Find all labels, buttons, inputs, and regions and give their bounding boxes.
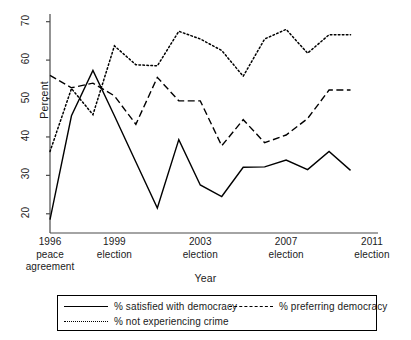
x-tick-year: 2003 — [155, 236, 245, 249]
y-axis-label: Percent — [38, 60, 50, 140]
x-axis-tick-label: 1999election — [69, 236, 159, 261]
x-tick-event: election — [69, 249, 159, 262]
series-line-solid — [50, 70, 351, 219]
legend-label-crime: % not experiencing crime — [114, 316, 229, 327]
legend-label-preferring: % preferring democracy — [279, 301, 387, 312]
x-axis-tick-label: 2003election — [155, 236, 245, 261]
y-axis-tick-label: 30 — [20, 163, 31, 185]
legend-item-crime: % not experiencing crime — [64, 314, 229, 328]
chart-legend: % satisfied with democracy % preferring … — [57, 295, 377, 331]
x-axis-label: Year — [0, 272, 411, 284]
x-tick-event: election — [327, 249, 411, 262]
legend-key-dotted-line-icon — [64, 316, 108, 326]
legend-label-satisfied: % satisfied with democracy — [114, 301, 237, 312]
plot-canvas — [0, 0, 411, 245]
x-tick-event: election — [155, 249, 245, 262]
legend-key-solid-line-icon — [64, 301, 108, 311]
y-axis-tick-label: 60 — [20, 48, 31, 70]
y-axis-tick-label: 70 — [20, 9, 31, 31]
series-line-dotted — [50, 29, 351, 151]
x-axis-tick-label: 2007election — [241, 236, 331, 261]
x-tick-year: 1999 — [69, 236, 159, 249]
series-line-dashed — [50, 75, 351, 145]
legend-key-dashed-line-icon — [229, 301, 273, 311]
y-axis-tick-label: 50 — [20, 86, 31, 108]
y-axis-tick-label: 20 — [20, 201, 31, 223]
x-tick-year: 2011 — [327, 236, 411, 249]
legend-item-preferring: % preferring democracy — [229, 299, 387, 313]
legend-item-satisfied: % satisfied with democracy — [64, 299, 237, 313]
x-axis-tick-label: 2011election — [327, 236, 411, 261]
plot-area: Percent 203040506070 — [0, 0, 411, 245]
chart-figure: Percent 203040506070 1996peaceagreement1… — [0, 0, 411, 340]
x-tick-year: 2007 — [241, 236, 331, 249]
y-axis-tick-label: 40 — [20, 124, 31, 146]
data-series-layer — [50, 29, 351, 219]
x-tick-event: election — [241, 249, 331, 262]
